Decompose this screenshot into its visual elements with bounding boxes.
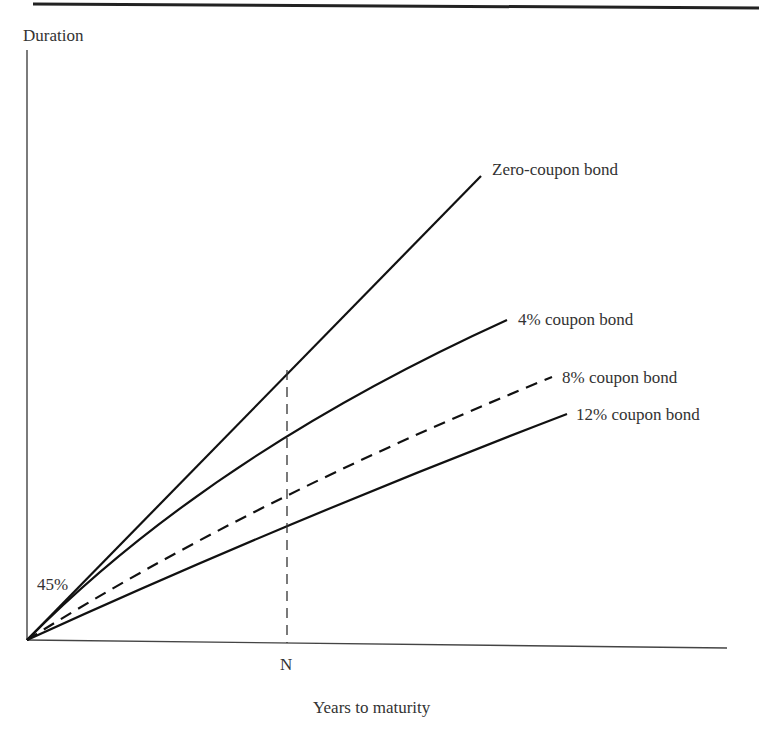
top-rule: [33, 4, 759, 8]
label-4pct-coupon: 4% coupon bond: [518, 310, 634, 329]
x-axis: [27, 640, 727, 648]
series-12pct-coupon: [27, 414, 567, 640]
angle-annotation: 45%: [37, 575, 68, 594]
y-axis-label: Duration: [23, 26, 84, 45]
label-12pct-coupon: 12% coupon bond: [576, 405, 700, 424]
x-axis-label: Years to maturity: [313, 698, 431, 717]
series-zero-coupon: [27, 176, 481, 640]
series-4pct-coupon: [27, 320, 507, 640]
series-8pct-coupon: [27, 377, 552, 640]
duration-maturity-chart: Duration Zero-coupon bond 4% coupon bond…: [0, 0, 759, 733]
label-8pct-coupon: 8% coupon bond: [562, 368, 678, 387]
label-zero-coupon: Zero-coupon bond: [492, 160, 619, 179]
x-tick-n: N: [280, 655, 292, 674]
